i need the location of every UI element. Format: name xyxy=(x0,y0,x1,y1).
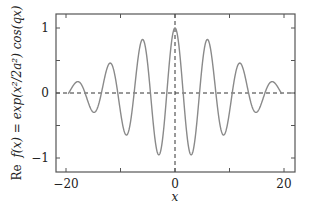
xtick-label-minus20: −20 xyxy=(53,177,78,191)
xtick-label-20: 20 xyxy=(276,177,291,191)
ytick-label-1: 1 xyxy=(41,21,49,35)
ytick-label-0: 0 xyxy=(41,86,49,100)
chart: −20 0 20 1 0 −1 x Re f(x) = exp(x²/2a²) … xyxy=(0,0,312,209)
xtick-label-0: 0 xyxy=(171,177,179,191)
y-axis-label: Re f(x) = exp(x²/2a²) cos(qx) xyxy=(10,5,24,180)
y-axis-label-re: Re xyxy=(10,164,24,180)
ytick-label-minus1: −1 xyxy=(31,151,49,165)
x-axis-label: x xyxy=(172,190,179,204)
y-axis-label-expr: f(x) = exp(x²/2a²) cos(qx) xyxy=(10,5,24,158)
